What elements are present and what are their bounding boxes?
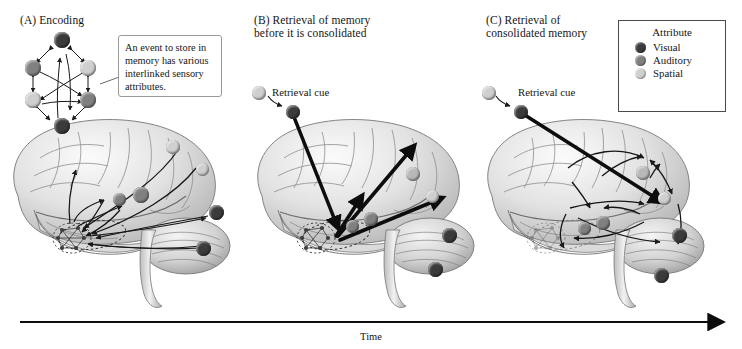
time-axis <box>0 0 742 349</box>
time-axis-label: Time <box>0 331 742 342</box>
